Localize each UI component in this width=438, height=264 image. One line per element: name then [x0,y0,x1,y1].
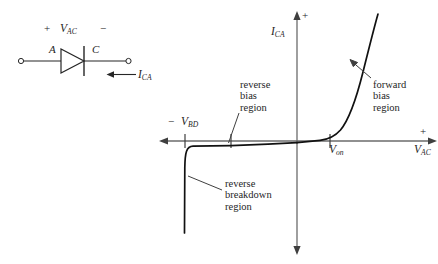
leader-reverse-breakdown [188,176,222,190]
forward-bias-line-3: region [373,102,406,113]
breakdown-voltage-symbol: V [181,115,188,127]
reverse-bias-region-label: reverse bias region [240,79,270,113]
x-axis-subscript: AC [421,148,431,157]
anode-label: A [49,44,56,56]
reverse-bias-line-3: region [240,102,270,113]
y-axis-subscript: CA [275,30,285,39]
right-terminal-node [126,58,131,63]
leader-reverse-bias [229,113,240,143]
turn-on-voltage-label: Von [329,143,344,157]
cathode-label: C [92,44,99,56]
reverse-bias-line-1: reverse [240,79,270,90]
y-axis-plus-sign: + [302,10,308,22]
reverse-breakdown-line-3: region [225,201,272,212]
turn-on-voltage-symbol: V [329,143,336,155]
y-axis-label: ICA [271,25,285,39]
graph-axes [159,11,437,255]
left-terminal-node [18,58,23,63]
reverse-breakdown-region-label: reverse breakdown region [225,178,272,212]
x-axis-arrow-left-icon [159,137,168,144]
circuit-minus-sign: − [100,23,106,35]
diode-triangle-icon [61,49,84,73]
y-axis-arrow-down-icon [293,246,300,255]
reverse-breakdown-line-2: breakdown [225,189,272,200]
current-arrow-icon [107,71,137,78]
breakdown-voltage-subscript: BD [188,120,198,129]
reverse-breakdown-line-1: reverse [225,178,272,189]
x-axis-symbol: V [414,143,421,155]
circuit-current-subscript: CA [142,73,152,82]
diode-circuit [18,46,136,78]
x-axis-minus-sign: − [168,116,174,128]
forward-bias-line-1: forward [373,79,406,90]
forward-bias-line-2: bias [373,90,406,101]
y-axis-arrow-up-icon [293,11,300,20]
reverse-bias-line-2: bias [240,90,270,101]
x-axis-label: VAC [414,143,431,157]
circuit-voltage-symbol: V [60,22,67,34]
curve-forward-branch [297,14,378,143]
circuit-plus-sign: + [44,23,50,35]
breakdown-voltage-label: VBD [181,115,198,129]
iv-curve [185,14,379,233]
circuit-voltage-label: VAC [60,22,77,36]
circuit-voltage-subscript: AC [67,27,77,36]
turn-on-voltage-subscript: on [336,148,344,157]
diode-characteristic-figure [0,0,438,264]
forward-bias-region-label: forward bias region [373,79,406,113]
circuit-current-label: ICA [138,68,152,82]
x-axis-plus-sign: + [420,126,426,138]
